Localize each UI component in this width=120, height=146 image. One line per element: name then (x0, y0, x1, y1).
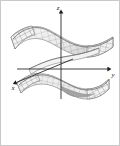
figure-container: z y x (0, 0, 120, 146)
z-axis-label: z (56, 4, 60, 12)
saddle-waist-band (29, 48, 99, 74)
lower-sheet-right-flap (87, 79, 109, 99)
y-axis-label: y (110, 71, 115, 79)
surface-saddle-waist (29, 48, 99, 74)
x-axis-label: x (10, 84, 15, 92)
surface-plot-svg: z y x (1, 1, 120, 146)
